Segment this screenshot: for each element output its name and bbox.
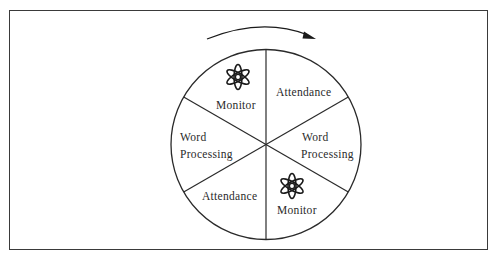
sector-label-line1: Word	[180, 131, 206, 143]
rotation-wheel-diagram: Monitor Attendance Word Processing Monit…	[0, 0, 498, 261]
sector-label-line2: Processing	[180, 148, 233, 161]
sector-word-processing-left: Word Processing	[180, 131, 233, 161]
sector-label: Monitor	[277, 204, 317, 216]
sector-label-line2: Processing	[301, 148, 354, 161]
sector-monitor-top: Monitor	[216, 65, 256, 112]
sector-monitor-bottom: Monitor	[277, 174, 317, 217]
sector-label: Attendance	[276, 86, 331, 98]
sector-label-line1: Word	[302, 131, 328, 143]
wheel	[171, 50, 361, 240]
sector-label: Attendance	[202, 190, 257, 202]
atom-icon	[279, 174, 305, 199]
atom-icon	[225, 65, 251, 90]
clockwise-arrow-icon	[207, 27, 316, 39]
sector-attendance-top: Attendance	[276, 86, 331, 98]
sector-word-processing-right: Word Processing	[301, 131, 354, 161]
sector-attendance-bottom: Attendance	[202, 190, 257, 202]
sector-label: Monitor	[216, 99, 256, 111]
